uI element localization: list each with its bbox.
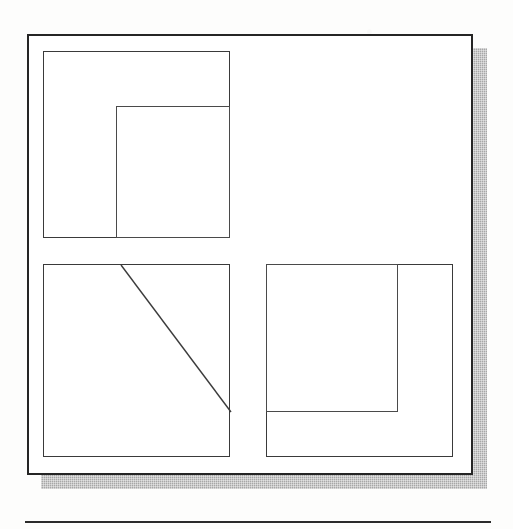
panel-bottom-left <box>43 264 230 457</box>
inner-rectangle-top-left <box>116 106 230 238</box>
panel-top-left <box>43 51 230 238</box>
diagonal-line <box>121 265 231 412</box>
diagonal-line-graphic <box>42 263 233 460</box>
inner-rectangle-bottom-right <box>266 264 398 412</box>
outer-frame <box>27 34 473 475</box>
panel-bottom-right <box>266 264 453 457</box>
next-figure-top-rule <box>25 521 491 523</box>
